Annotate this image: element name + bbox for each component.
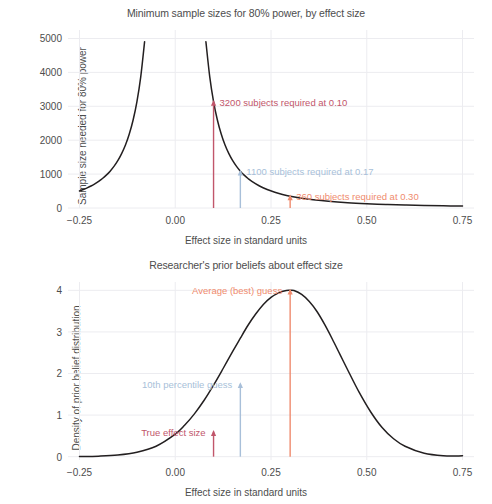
y-axis-tick-label: 2: [56, 368, 62, 379]
x-axis-tick-label: 0.00: [166, 467, 185, 478]
marker-arrowhead-icon: [238, 382, 243, 388]
x-axis-tick-label: 0.75: [453, 215, 472, 226]
chart-annotation: True effect size: [141, 426, 205, 437]
marker-arrowhead-icon: [211, 100, 216, 106]
chart-title-top: Minimum sample sizes for 80% power, by e…: [0, 7, 492, 19]
y-axis-tick-label: 1000: [40, 169, 62, 180]
y-axis-tick-label: 2000: [40, 135, 62, 146]
x-axis-tick-label: 0.00: [166, 215, 185, 226]
chart-annotation: Average (best) guess: [192, 285, 282, 296]
x-axis-tick-label: 0.75: [453, 467, 472, 478]
x-axis-tick-label: 0.50: [357, 467, 376, 478]
y-axis-tick-label: 3000: [40, 101, 62, 112]
chart-title-bottom: Researcher's prior beliefs about effect …: [0, 259, 492, 271]
y-axis-tick-label: 3: [56, 326, 62, 337]
panel-prior-density: Researcher's prior beliefs about effect …: [0, 252, 492, 504]
x-axis-tick-label: −0.25: [67, 467, 92, 478]
plot-area-bottom: 01234−0.250.000.250.500.75Average (best)…: [68, 282, 474, 460]
plot-area-top: 010002000300040005000−0.250.000.250.500.…: [68, 30, 474, 208]
figure-container: Minimum sample sizes for 80% power, by e…: [0, 0, 492, 504]
x-axis-tick-label: 0.25: [261, 467, 280, 478]
y-axis-tick-label: 0: [56, 203, 62, 214]
x-axis-tick-label: 0.50: [357, 215, 376, 226]
marker-arrowhead-icon: [211, 430, 216, 436]
chart-annotation: 10th percentile guess: [142, 378, 232, 389]
power-curve-svg: [68, 30, 474, 208]
y-axis-tick-label: 0: [56, 451, 62, 462]
y-axis-tick-label: 4000: [40, 67, 62, 78]
prior-density-svg: [68, 282, 474, 460]
chart-annotation: 1100 subjects required at 0.17: [246, 166, 373, 177]
x-axis-tick-label: −0.25: [67, 215, 92, 226]
y-axis-tick-label: 5000: [40, 33, 62, 44]
chart-annotation: 360 subjects required at 0.30: [296, 191, 419, 202]
chart-annotation: 3200 subjects required at 0.10: [220, 96, 348, 107]
x-axis-label-bottom: Effect size in standard units: [0, 487, 492, 498]
y-axis-tick-label: 4: [56, 285, 62, 296]
x-axis-label-top: Effect size in standard units: [0, 235, 492, 246]
x-axis-tick-label: 0.25: [261, 215, 280, 226]
panel-power-curve: Minimum sample sizes for 80% power, by e…: [0, 0, 492, 252]
y-axis-tick-label: 1: [56, 410, 62, 421]
